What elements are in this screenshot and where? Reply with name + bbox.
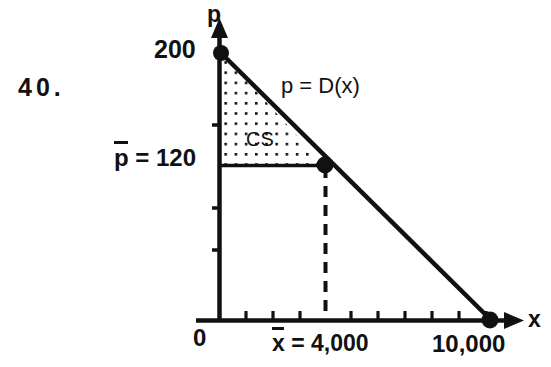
demand-curve-label: p = D(x): [281, 75, 360, 97]
point-x-intercept: [482, 312, 499, 329]
equilibrium-quantity-value: = 4,000: [285, 330, 369, 356]
consumer-surplus-label: CS: [246, 129, 274, 149]
figure-canvas: [0, 0, 551, 367]
point-y-intercept: [213, 45, 229, 61]
x-intercept-label: 10,000: [432, 332, 505, 356]
p-bar-symbol: p: [114, 146, 129, 170]
problem-number: 40.: [18, 75, 65, 100]
x-bar-symbol: x: [272, 332, 285, 355]
equilibrium-quantity-label: x = 4,000: [272, 332, 369, 355]
x-axis-label: x: [528, 308, 541, 331]
y-intercept-label: 200: [154, 37, 196, 62]
point-equilibrium: [317, 157, 334, 174]
equilibrium-price-value: = 120: [129, 144, 196, 171]
origin-label: 0: [193, 326, 206, 350]
y-axis-label: p: [207, 3, 221, 26]
x-axis: [196, 311, 524, 329]
equilibrium-price-label: p = 120: [114, 146, 196, 170]
consumer-surplus-figure: 40. p x 200 p = 120 0 x = 4,000 10,000 p…: [0, 0, 551, 367]
